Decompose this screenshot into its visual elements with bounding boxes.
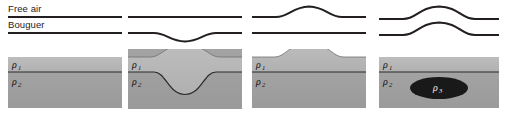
panel2-rho1-subscript: 1 — [138, 64, 141, 71]
panel1-rho2-layer — [8, 72, 122, 108]
panel3-rho1-symbol: ρ — [255, 59, 261, 70]
panel-uncompensated: ρ 1 ρ 2 — [252, 0, 366, 115]
panel3-rho1-layer — [252, 49, 366, 72]
panel-airy-root: ρ 1 ρ 2 — [128, 0, 242, 115]
panel3-anomaly-curves — [252, 0, 366, 46]
panel4-rho3-subscript: 3 — [438, 87, 443, 94]
panel2-anomaly-curves — [128, 0, 242, 48]
panel4-free-air-curve — [379, 7, 499, 20]
panel4-rho1-layer — [379, 57, 499, 72]
panel4-rho1-symbol: ρ — [382, 59, 388, 70]
panel3-rho2-layer — [252, 72, 366, 108]
panel2-rho1-symbol: ρ — [131, 59, 137, 70]
panel1-rho1-subscript: 1 — [18, 64, 21, 71]
panel3-rho2-symbol: ρ — [255, 76, 261, 87]
panel4-bouguer-curve — [379, 23, 499, 36]
panel2-rho2-symbol: ρ — [131, 76, 137, 87]
panel1-cross-section: ρ 1 ρ 2 — [8, 49, 122, 109]
panel1-anomaly-curves — [8, 0, 122, 46]
panel2-bouguer-curve — [128, 33, 242, 42]
panel-flat-crust: ρ 1 ρ 2 — [8, 0, 122, 115]
panel3-rho1-subscript: 1 — [262, 64, 265, 71]
panel3-cross-section: ρ 1 ρ 2 — [252, 49, 366, 109]
panel1-rho2-symbol: ρ — [11, 76, 17, 87]
panel2-cross-section: ρ 1 ρ 2 — [128, 49, 242, 109]
panel1-rho1-symbol: ρ — [11, 59, 17, 70]
panel4-rho3-symbol: ρ — [432, 82, 438, 93]
panel-buried-body: ρ 1 ρ 2 ρ 3 — [379, 0, 499, 115]
gravity-anomaly-figure: Free air Bouguer ρ 1 ρ — [0, 0, 507, 115]
panel4-rho1-subscript: 1 — [389, 64, 392, 71]
panel4-anomaly-curves — [379, 0, 499, 46]
panel4-rho2-symbol: ρ — [382, 76, 388, 87]
panel3-free-air-curve — [252, 7, 366, 18]
panel4-cross-section: ρ 1 ρ 2 ρ 3 — [379, 49, 499, 109]
panel1-rho1-layer — [8, 57, 122, 72]
